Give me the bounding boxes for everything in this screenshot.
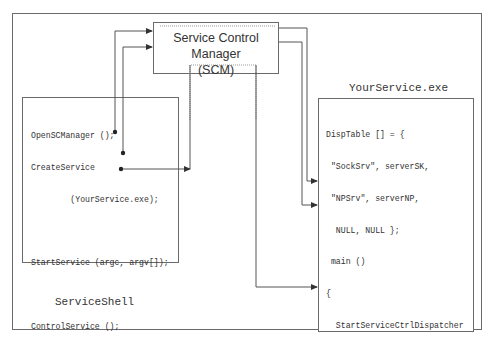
code-line-start-service: StartService (argc, argv[]); xyxy=(31,258,169,269)
code-line: StartServiceCtrlDispatcher xyxy=(326,321,464,332)
scm-abbrev: (SCM) xyxy=(154,62,278,78)
service-shell-label: ServiceShell xyxy=(55,296,134,308)
your-service-label: YourService.exe xyxy=(349,82,448,94)
scm-title: Service Control Manager xyxy=(154,30,278,62)
code-line-blank xyxy=(31,227,169,238)
service-shell-code: OpenSCManager (); CreateService (YourSer… xyxy=(31,110,169,351)
code-line-control-service: ControlService (); xyxy=(31,322,169,333)
code-line-main: main () xyxy=(326,257,464,268)
code-line: DispTable [] = { xyxy=(326,130,464,141)
code-line: "SockSrv", serverSK, xyxy=(326,162,464,173)
code-line: "NPSrv", serverNP, xyxy=(326,194,464,205)
your-service-code: DispTable [] = { "SockSrv", serverSK, "N… xyxy=(326,109,464,351)
service-shell-box: OpenSCManager (); CreateService (YourSer… xyxy=(22,97,179,263)
code-line-create-service-arg: (YourService.exe); xyxy=(31,195,169,206)
code-line: NULL, NULL }; xyxy=(326,226,464,237)
code-line-open-scmanager: OpenSCManager (); xyxy=(31,131,169,142)
scm-box: Service Control Manager (SCM) xyxy=(153,22,279,74)
code-line: { xyxy=(326,289,464,300)
code-line-create-service: CreateService xyxy=(31,163,169,174)
your-service-box: DispTable [] = { "SockSrv", serverSK, "N… xyxy=(318,98,474,332)
